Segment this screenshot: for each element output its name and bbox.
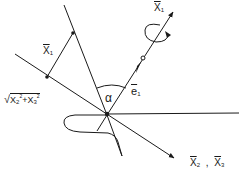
label-x1-top: X1 [154, 3, 164, 13]
label-sqrt-expression: √X22+X32 [4, 94, 40, 105]
term2-sup: 2 [37, 93, 40, 99]
diagram-canvas [0, 0, 239, 181]
hook-shape [64, 115, 122, 156]
alpha-arc [97, 85, 126, 88]
origin-dot [105, 112, 109, 116]
label-x1-top-base: X [154, 2, 161, 13]
label-e1-sub: 1 [137, 91, 140, 97]
axis-x2-x3-line [15, 54, 174, 158]
e1-small-circle [141, 56, 145, 60]
point-dot-upper [71, 31, 75, 35]
label-x2-x3: X2 , X3 [190, 158, 224, 168]
point-dot-lower [45, 75, 49, 79]
label-separator: , [206, 157, 209, 168]
term2-sub: 3 [33, 99, 36, 105]
steep-line [64, 5, 107, 115]
label-alpha: α [105, 92, 112, 104]
label-x1-segment: X1 [43, 46, 53, 56]
label-x2-sub: 2 [197, 162, 200, 168]
label-x1-top-sub: 1 [161, 7, 164, 13]
label-e1: e1 [131, 86, 140, 97]
label-x3-sub: 3 [221, 162, 224, 168]
horizontal-line [107, 113, 239, 114]
label-x2-base: X [190, 157, 197, 168]
label-x1-segment-base: X [43, 45, 50, 56]
rotation-arrow-icon [145, 24, 168, 42]
radicand: X22+X32 [10, 93, 40, 105]
term1-sub: 2 [16, 99, 19, 105]
short-lower-line [97, 115, 107, 131]
rotation-arrowhead-icon [165, 31, 171, 38]
label-x1-segment-sub: 1 [50, 50, 53, 56]
